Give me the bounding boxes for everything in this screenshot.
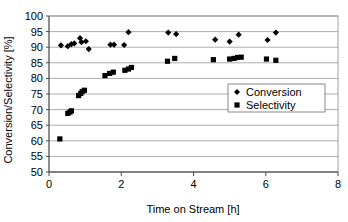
data-point-selectivity — [129, 65, 134, 70]
chart-figure: 50556065707580859095100 02468 Conversion… — [0, 0, 348, 222]
y-tick-label: 50 — [31, 166, 43, 178]
x-tick-label: 6 — [263, 178, 269, 190]
y-tick-label: 90 — [31, 41, 43, 53]
data-point-selectivity — [239, 55, 244, 60]
legend-label-conversion[interactable]: Conversion — [246, 86, 302, 98]
chart-legend[interactable]: ConversionSelectivity — [228, 84, 325, 112]
data-point-selectivity — [57, 136, 62, 141]
data-point-selectivity — [273, 58, 278, 63]
y-axis-ticks: 50556065707580859095100 — [25, 10, 49, 178]
y-tick-label: 60 — [31, 135, 43, 147]
x-tick-label: 8 — [335, 178, 341, 190]
y-tick-label: 80 — [31, 72, 43, 84]
y-tick-label: 95 — [31, 26, 43, 38]
y-axis-title: Conversion/Selectivity [%] — [2, 36, 14, 163]
data-point-selectivity — [172, 56, 177, 61]
data-point-selectivity — [165, 59, 170, 64]
y-tick-label: 100 — [25, 10, 43, 22]
x-tick-label: 0 — [46, 178, 52, 190]
data-point-selectivity — [102, 73, 107, 78]
y-tick-label: 85 — [31, 57, 43, 69]
legend-marker-selectivity — [234, 102, 239, 107]
data-point-selectivity — [82, 88, 87, 93]
y-tick-label: 55 — [31, 150, 43, 162]
x-axis-title: Time on Stream [h] — [146, 203, 239, 215]
y-tick-label: 70 — [31, 104, 43, 116]
y-tick-label: 65 — [31, 119, 43, 131]
x-tick-label: 2 — [118, 178, 124, 190]
scatter-plot: 50556065707580859095100 02468 Conversion… — [0, 0, 348, 222]
data-point-selectivity — [69, 108, 74, 113]
data-point-selectivity — [264, 56, 269, 61]
legend-label-selectivity[interactable]: Selectivity — [246, 99, 296, 111]
data-point-selectivity — [111, 70, 116, 75]
y-tick-label: 75 — [31, 88, 43, 100]
x-axis-ticks: 02468 — [46, 172, 341, 190]
x-tick-label: 4 — [190, 178, 196, 190]
data-point-selectivity — [211, 57, 216, 62]
